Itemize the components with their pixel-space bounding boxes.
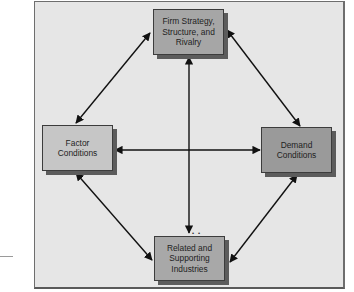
node-demand-conditions-label: Demand Conditions [277,140,317,161]
node-demand-conditions: Demand Conditions [261,127,332,173]
node-firm-strategy-label: Firm Strategy, Structure, and Rivalry [162,16,215,48]
arrow-factor-related [76,173,152,260]
arrow-demand-related [230,175,297,262]
node-firm-strategy: Firm Strategy, Structure, and Rivalry [153,9,224,55]
node-factor-conditions-label: Factor Conditions [58,138,98,159]
node-related-supporting-label: Related and Supporting Industries [167,243,212,275]
node-factor-conditions: Factor Conditions [42,125,113,171]
node-related-supporting: Related and Supporting Industries [154,236,225,281]
artifact-dots: •• [192,230,204,236]
arrow-strategy-factor [76,33,150,123]
arrow-strategy-demand [227,30,300,126]
